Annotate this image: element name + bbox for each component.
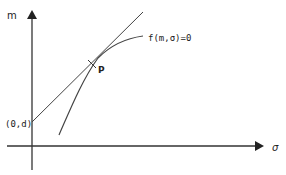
x-axis-arrow-icon — [255, 141, 264, 151]
intercept-label: (0,d) — [5, 119, 32, 129]
diagram-canvas: m σ (0,d) P f(m,σ)=0 — [0, 0, 286, 175]
curve-label: f(m,σ)=0 — [148, 33, 191, 43]
point-label: P — [98, 65, 105, 75]
y-axis-label: m — [7, 10, 17, 21]
constraint-curve — [59, 36, 143, 135]
tangent-line — [32, 12, 143, 122]
x-axis-label: σ — [272, 142, 279, 153]
y-axis-arrow-icon — [27, 10, 37, 19]
